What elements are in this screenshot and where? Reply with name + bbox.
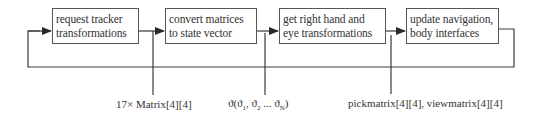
- state-vector-text: , ϑ: [246, 97, 257, 109]
- box-text-line1: request tracker: [56, 12, 138, 26]
- box-text-line2: to state vector: [169, 26, 256, 40]
- box-update-navigation: update navigation, body interfaces: [406, 8, 499, 44]
- box-get-right-hand: get right hand and eye transformations: [279, 8, 386, 44]
- box-text-line1: convert matrices: [169, 12, 256, 26]
- box-text-line1: update navigation,: [410, 12, 498, 26]
- box-convert-matrices: convert matrices to state vector: [165, 8, 257, 44]
- state-vector-text: ... ϑ: [261, 97, 280, 109]
- box-text-line2: body interfaces: [410, 26, 498, 40]
- state-vector-text: ): [285, 97, 289, 109]
- state-vector-text: ϑ(ϑ: [228, 97, 243, 109]
- signal-label-matrices: 17× Matrix[4][4]: [116, 98, 192, 110]
- signal-label-state-vector: ϑ(ϑ1, ϑ2 ... ϑN): [228, 97, 288, 112]
- box-text-line2: eye transformations: [283, 26, 385, 40]
- box-request-tracker: request tracker transformations: [52, 8, 139, 44]
- signal-label-pick-view: pickmatrix[4][4], viewmatrix[4][4]: [348, 97, 503, 109]
- box-text-line2: transformations: [56, 26, 138, 40]
- box-text-line1: get right hand and: [283, 12, 385, 26]
